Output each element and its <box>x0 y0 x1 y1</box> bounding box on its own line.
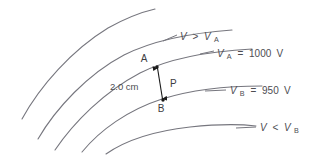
point-label-p: P <box>170 78 177 89</box>
point-marker-a <box>155 65 158 68</box>
label-below-b-v: V <box>260 122 268 133</box>
point-marker-b <box>161 98 164 101</box>
label-below-b: V < V B <box>260 122 299 135</box>
label-surface-b-value: 950 <box>262 85 279 96</box>
equipotential-curve-outer-bottom <box>106 125 256 154</box>
label-surface-b-equals: = <box>250 85 256 96</box>
label-surface-b-subscript: B <box>240 89 245 98</box>
label-surface-a: V A = 1000 V <box>217 48 284 61</box>
separation-arrow <box>158 68 163 99</box>
label-surface-a-unit: V <box>277 48 284 59</box>
equipotential-curve-group <box>22 9 262 154</box>
equipotential-diagram: A B P 2.0 cm V > V A V A = 1000 V V B = … <box>0 0 309 155</box>
separation-distance-label: 2.0 cm <box>110 81 139 92</box>
label-above-a: V > V A <box>180 31 219 44</box>
label-below-b-v2-subscript: B <box>294 126 299 135</box>
diagram-canvas: A B P 2.0 cm V > V A V A = 1000 V V B = … <box>0 0 309 155</box>
label-surface-b: V B = 950 V <box>230 85 291 98</box>
equipotential-curve-a <box>55 49 252 150</box>
label-above-a-v2: V <box>204 31 212 42</box>
label-surface-a-v: V <box>217 48 225 59</box>
point-label-a: A <box>141 53 148 64</box>
label-surface-a-subscript: A <box>227 52 232 61</box>
label-below-b-relation: < <box>272 122 278 133</box>
label-surface-a-value: 1000 <box>249 48 272 59</box>
label-above-a-v: V <box>180 31 188 42</box>
label-surface-b-v: V <box>230 85 238 96</box>
label-above-a-relation: > <box>192 31 198 42</box>
label-surface-a-equals: = <box>237 48 243 59</box>
equipotential-curve-outer-top <box>22 9 155 119</box>
leader-line-surface-b <box>205 90 226 91</box>
label-above-a-v2-subscript: A <box>214 35 219 44</box>
label-below-b-v2: V <box>284 122 292 133</box>
point-label-b: B <box>158 103 165 114</box>
leader-line-below-b <box>236 127 256 128</box>
label-surface-b-unit: V <box>284 85 291 96</box>
